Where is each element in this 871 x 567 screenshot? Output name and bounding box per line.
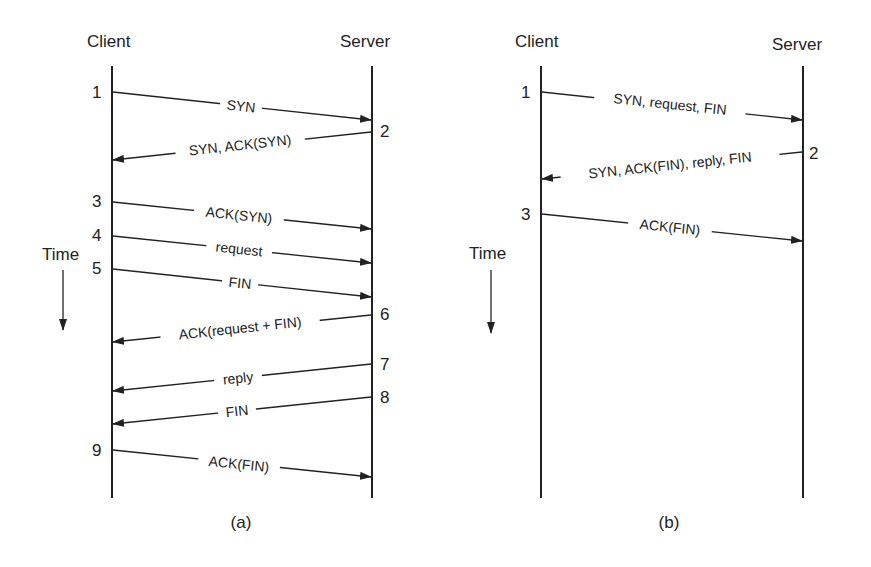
message-label: ACK(FIN) xyxy=(639,216,701,238)
message-label: ACK(FIN) xyxy=(208,453,270,475)
diagram-a: Client Server Time 1 SYN 2 SYN, ACK(SYN)… xyxy=(42,32,390,532)
message-label: ACK(request + FIN) xyxy=(178,314,302,343)
step-number: 2 xyxy=(380,122,389,141)
step-number: 3 xyxy=(92,192,101,211)
step-number: 2 xyxy=(809,144,818,163)
server-label: Server xyxy=(340,32,390,51)
step-number: 8 xyxy=(380,388,389,407)
message-label: SYN, ACK(FIN), reply, FIN xyxy=(588,148,753,181)
client-label: Client xyxy=(87,32,131,51)
message-label: FIN xyxy=(225,402,249,420)
step-number: 3 xyxy=(521,205,530,224)
step-number: 1 xyxy=(521,83,530,102)
figure-caption: (a) xyxy=(231,513,252,532)
message-label: request xyxy=(215,239,263,260)
diagram-b: Client Server Time 1 SYN, request, FIN 2… xyxy=(469,32,822,532)
figure-caption: (b) xyxy=(659,513,680,532)
message-label: ACK(SYN) xyxy=(205,204,273,227)
message-label: SYN xyxy=(226,96,256,115)
tcp-sequence-diagrams: Client Server Time 1 SYN 2 SYN, ACK(SYN)… xyxy=(0,0,871,567)
step-number: 1 xyxy=(92,83,101,102)
time-label: Time xyxy=(469,244,506,263)
step-number: 9 xyxy=(92,441,101,460)
message-label: reply xyxy=(222,368,254,387)
step-number: 5 xyxy=(92,259,101,278)
step-number: 4 xyxy=(92,226,101,245)
server-label: Server xyxy=(772,35,822,54)
client-label: Client xyxy=(515,32,559,51)
message-label: FIN xyxy=(228,274,252,292)
time-label: Time xyxy=(42,245,79,264)
step-number: 7 xyxy=(380,355,389,374)
step-number: 6 xyxy=(380,305,389,324)
